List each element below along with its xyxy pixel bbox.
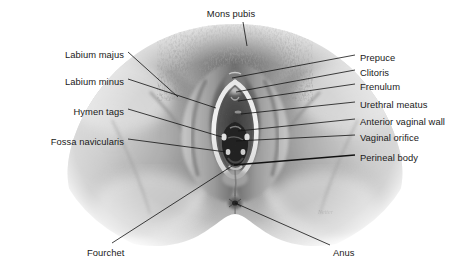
label-anus: Anus (333, 248, 355, 257)
label-fossa-navicularis: Fossa navicularis (0, 137, 124, 146)
label-labium-minus: Labium minus (0, 77, 124, 86)
label-labium-majus: Labium majus (0, 50, 124, 59)
label-vaginal-orifice: Vaginal orifice (360, 133, 419, 142)
label-clitoris: Clitoris (360, 68, 389, 77)
artist-signature: Netter (317, 209, 334, 215)
label-hymen-tags: Hymen tags (0, 107, 124, 116)
label-fourchet: Fourchet (87, 248, 124, 257)
label-perineal-body: Perineal body (360, 153, 418, 162)
label-mons-pubis: Mons pubis (186, 9, 276, 18)
label-anterior-vaginal-wall: Anterior vaginal wall (360, 117, 445, 126)
label-urethral-meatus: Urethral meatus (360, 100, 427, 109)
anatomical-figure: Netter Mons pubis Labium majus Labium m (0, 0, 470, 270)
label-prepuce: Prepuce (360, 53, 395, 62)
label-frenulum: Frenulum (360, 82, 400, 91)
